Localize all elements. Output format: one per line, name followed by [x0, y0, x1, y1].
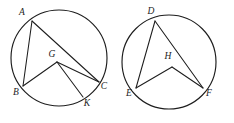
point-label-E: E [125, 88, 132, 98]
segment-DE [136, 21, 155, 88]
point-label-G: G [49, 49, 56, 59]
point-label-F: F [205, 88, 212, 98]
circle-right-outline [122, 15, 216, 109]
segment-GK [57, 62, 83, 97]
point-label-D: D [147, 6, 155, 16]
point-label-H: H [164, 51, 173, 61]
segment-HF [172, 67, 203, 88]
segment-GC [57, 62, 99, 82]
point-label-B: B [13, 87, 19, 97]
figure-canvas: ABCKGDEFH [0, 0, 234, 123]
circle-left-outline [11, 10, 107, 106]
circle-right: DEFH [122, 6, 216, 109]
figure-content: ABCKGDEFH [11, 6, 216, 109]
segment-BG [23, 62, 57, 86]
segment-AB [23, 21, 32, 86]
point-label-A: A [18, 7, 25, 17]
point-label-C: C [101, 81, 108, 91]
segment-DF [155, 21, 203, 88]
point-label-K: K [83, 98, 91, 108]
geometry-figure: ABCKGDEFH [0, 0, 234, 123]
circle-left: ABCKG [11, 7, 108, 108]
